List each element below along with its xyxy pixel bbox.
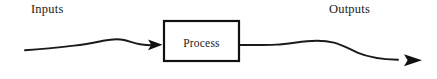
output-flow-line [240,41,398,60]
input-flow-line [25,39,153,50]
output-arrowhead-icon [404,54,422,66]
process-box-label: Process [183,37,220,49]
diagram-canvas: Process [0,0,437,79]
process-flow-diagram: Process Inputs Outputs [0,0,437,79]
inputs-label: Inputs [31,2,63,17]
outputs-label: Outputs [329,2,370,17]
